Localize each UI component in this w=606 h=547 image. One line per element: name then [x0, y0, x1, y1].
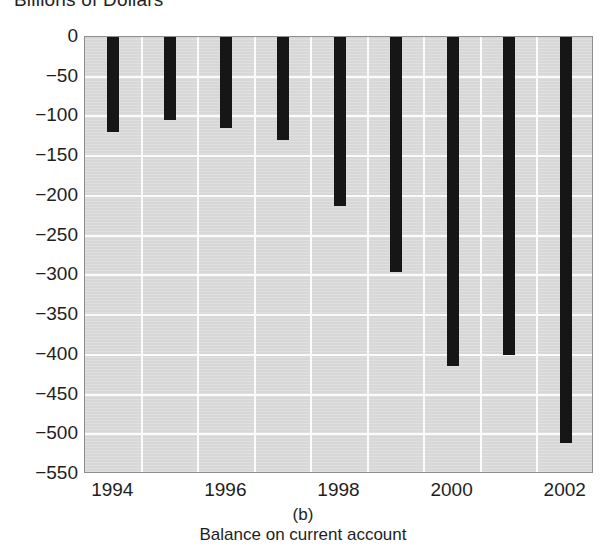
- bar: [560, 37, 572, 443]
- bar: [220, 37, 232, 128]
- gridline-vertical: [141, 37, 143, 472]
- gridline-vertical: [197, 37, 199, 472]
- gridline-horizontal: [85, 394, 592, 396]
- y-axis-tick-label: −150: [2, 144, 78, 166]
- x-axis-tick-label: 1998: [317, 479, 359, 501]
- gridline-vertical: [367, 37, 369, 472]
- bar: [107, 37, 119, 132]
- bar: [277, 37, 289, 140]
- bar: [164, 37, 176, 120]
- chart-figure: Billions of Dollars 0−50−100−150−200−250…: [0, 0, 606, 547]
- y-axis-tick-label: −200: [2, 184, 78, 206]
- y-axis-tick-label: −350: [2, 303, 78, 325]
- gridline-horizontal: [85, 314, 592, 316]
- gridline-vertical: [423, 37, 425, 472]
- plot-area: [84, 36, 593, 473]
- gridline-vertical: [536, 37, 538, 472]
- bar: [334, 37, 346, 206]
- y-axis-tick-label: −50: [2, 65, 78, 87]
- gridline-horizontal: [85, 354, 592, 356]
- x-axis-tick-label: 1994: [91, 479, 133, 501]
- gridline-horizontal: [85, 274, 592, 276]
- gridline-vertical: [480, 37, 482, 472]
- y-axis-tick-label: −400: [2, 343, 78, 365]
- gridline-vertical: [310, 37, 312, 472]
- y-axis-tick-labels: 0−50−100−150−200−250−300−350−400−450−500…: [0, 0, 78, 547]
- y-axis-tick-label: −500: [2, 422, 78, 444]
- x-axis-tick-label: 1996: [204, 479, 246, 501]
- x-axis-tick-label: 2002: [544, 479, 586, 501]
- y-axis-tick-label: −550: [2, 462, 78, 484]
- y-axis-tick-label: −300: [2, 263, 78, 285]
- x-axis-tick-label: 2000: [430, 479, 472, 501]
- y-axis-tick-label: 0: [2, 25, 78, 47]
- y-axis-tick-label: −250: [2, 224, 78, 246]
- bar: [503, 37, 515, 355]
- gridline-horizontal: [85, 235, 592, 237]
- gridline-vertical: [254, 37, 256, 472]
- y-axis-tick-label: −100: [2, 104, 78, 126]
- gridline-horizontal: [85, 433, 592, 435]
- panel-letter: (b): [0, 505, 606, 525]
- bar: [447, 37, 459, 366]
- bar: [390, 37, 402, 272]
- chart-caption: Balance on current account: [0, 525, 606, 545]
- y-axis-tick-label: −450: [2, 383, 78, 405]
